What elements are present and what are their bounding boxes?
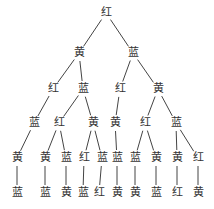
tree-edge bbox=[38, 96, 49, 116]
tree-node: 蓝 bbox=[10, 186, 24, 200]
tree-node: 红 bbox=[191, 151, 205, 165]
tree-node: 红 bbox=[77, 151, 91, 165]
tree-node: 红 bbox=[170, 186, 184, 200]
tree-node: 黄 bbox=[86, 116, 100, 130]
tree-edge bbox=[21, 130, 31, 151]
tree-node: 红 bbox=[138, 116, 152, 130]
tree-edge bbox=[61, 131, 65, 150]
tree-edge bbox=[83, 166, 84, 185]
tree-edge bbox=[48, 130, 56, 150]
tree-edge bbox=[176, 131, 177, 150]
tree-edge bbox=[84, 20, 102, 47]
tree-node: 蓝 bbox=[95, 151, 109, 165]
tree-node: 蓝 bbox=[149, 186, 163, 200]
tree-edge bbox=[137, 131, 143, 151]
tree-node: 黄 bbox=[10, 151, 24, 165]
tree-edge bbox=[80, 61, 82, 81]
tree-node: 黄 bbox=[128, 186, 142, 200]
tree-node: 红 bbox=[113, 82, 127, 96]
tree-edge bbox=[138, 60, 154, 83]
tree-edge bbox=[95, 131, 100, 151]
tree-edge bbox=[162, 96, 173, 116]
tree-node: 蓝 bbox=[128, 151, 142, 165]
tree-node: 黄 bbox=[59, 186, 73, 200]
tree-node: 黄 bbox=[72, 46, 86, 60]
tree-node: 黄 bbox=[149, 151, 163, 165]
tree-node: 红 bbox=[46, 82, 60, 96]
tree-edge bbox=[111, 20, 129, 47]
tree-edge bbox=[85, 97, 90, 116]
tree-edges bbox=[0, 0, 214, 209]
tree-edge bbox=[116, 131, 117, 150]
tree-node: 黄 bbox=[170, 151, 184, 165]
tree-node: 黄 bbox=[110, 186, 124, 200]
tree-node: 红 bbox=[92, 186, 106, 200]
tree-node: 蓝 bbox=[126, 46, 140, 60]
tree-edge bbox=[58, 60, 75, 83]
tree-edge bbox=[86, 131, 91, 151]
tree-node: 黄 bbox=[151, 82, 165, 96]
tree-edge bbox=[147, 131, 153, 151]
tree-node: 红 bbox=[99, 6, 113, 20]
tree-node: 蓝 bbox=[169, 116, 183, 130]
tree-node: 黄 bbox=[191, 186, 205, 200]
tree-node: 红 bbox=[52, 116, 66, 130]
tree-diagram: 红黄蓝红蓝红黄蓝红黄黄红蓝黄黄蓝红蓝蓝蓝黄黄红蓝蓝黄蓝红黄黄蓝红黄 bbox=[0, 0, 214, 209]
tree-edge bbox=[180, 130, 193, 151]
tree-edge bbox=[64, 96, 79, 117]
tree-edge bbox=[148, 97, 155, 116]
tree-node: 蓝 bbox=[59, 151, 73, 165]
tree-node: 蓝 bbox=[27, 116, 41, 130]
tree-edge bbox=[100, 166, 102, 185]
tree-node: 蓝 bbox=[76, 186, 90, 200]
tree-node: 蓝 bbox=[76, 82, 90, 96]
tree-edge bbox=[116, 97, 119, 115]
tree-edge bbox=[123, 61, 131, 82]
tree-node: 黄 bbox=[38, 151, 52, 165]
tree-node: 蓝 bbox=[110, 151, 124, 165]
tree-node: 黄 bbox=[108, 116, 122, 130]
tree-node: 蓝 bbox=[38, 186, 52, 200]
